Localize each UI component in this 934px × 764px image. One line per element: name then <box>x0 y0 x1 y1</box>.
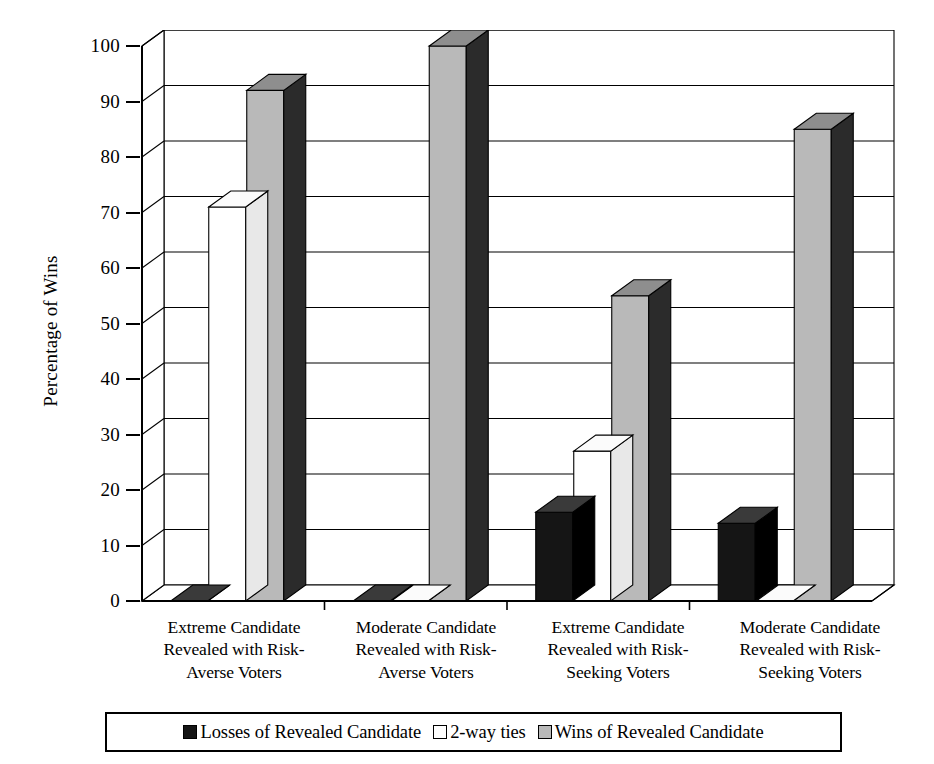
category-label-line: Averse Voters <box>330 661 522 683</box>
y-axis-tick-label: 100 <box>74 36 120 55</box>
bar-front-face <box>209 207 246 601</box>
y-axis-tick-label: 90 <box>74 92 120 111</box>
category-label-line: Seeking Voters <box>522 661 714 683</box>
category-label-line: Revealed with Risk- <box>330 638 522 660</box>
bar-2-wins-of-revealed-candidate <box>429 30 488 601</box>
bar-front-face <box>536 512 573 601</box>
x-axis-category-labels: Extreme CandidateRevealed with Risk-Aver… <box>138 616 906 683</box>
y-axis-title: Percentage of Wins <box>40 201 62 461</box>
bar-side-face <box>284 74 306 601</box>
y-axis-tick-label: 20 <box>74 480 120 499</box>
legend-label: 2-way ties <box>450 722 526 743</box>
x-axis-category-label-4: Moderate CandidateRevealed with Risk-See… <box>714 616 906 683</box>
chart-legend: Losses of Revealed Candidate2-way tiesWi… <box>105 712 842 752</box>
bar-side-face <box>611 435 633 601</box>
category-label-line: Moderate Candidate <box>330 616 522 638</box>
x-axis-category-label-2: Moderate CandidateRevealed with Risk-Ave… <box>330 616 522 683</box>
category-label-line: Seeking Voters <box>714 661 906 683</box>
legend-item-wins[interactable]: Wins of Revealed Candidate <box>538 722 764 743</box>
bar-front-face <box>794 129 831 601</box>
category-label-line: Extreme Candidate <box>522 616 714 638</box>
y-axis-tick-label: 70 <box>74 203 120 222</box>
legend-label: Wins of Revealed Candidate <box>555 722 764 743</box>
bar-side-face <box>649 280 671 601</box>
bar-side-face <box>466 30 488 601</box>
y-axis-tick-label: 60 <box>74 258 120 277</box>
y-axis-tick-label: 40 <box>74 369 120 388</box>
y-axis-tick-label: 50 <box>74 314 120 333</box>
bar-chart: Percentage of Wins 100908070605040302010… <box>0 0 934 764</box>
bar-side-face <box>573 496 595 601</box>
plot-svg <box>138 30 900 610</box>
legend-item-losses[interactable]: Losses of Revealed Candidate <box>183 722 421 743</box>
category-label-line: Revealed with Risk- <box>138 638 330 660</box>
bar-front-face <box>718 523 755 601</box>
bar-side-face <box>831 113 853 601</box>
legend-swatch-ties-icon <box>433 725 447 739</box>
bar-side-face <box>246 191 268 601</box>
x-axis-category-label-3: Extreme CandidateRevealed with Risk-Seek… <box>522 616 714 683</box>
x-axis-category-label-1: Extreme CandidateRevealed with Risk-Aver… <box>138 616 330 683</box>
bar-4-losses-of-revealed-candidate <box>718 507 777 601</box>
legend-item-ties[interactable]: 2-way ties <box>433 722 526 743</box>
category-label-line: Extreme Candidate <box>138 616 330 638</box>
y-axis-tick-label: 30 <box>74 425 120 444</box>
legend-swatch-losses-icon <box>183 725 197 739</box>
category-label-line: Moderate Candidate <box>714 616 906 638</box>
category-label-line: Revealed with Risk- <box>522 638 714 660</box>
bar-3-losses-of-revealed-candidate <box>536 496 595 601</box>
bar-1-2-way-ties <box>209 191 268 601</box>
y-axis-tick-label: 0 <box>74 591 120 610</box>
y-axis-tick-label: 10 <box>74 536 120 555</box>
bar-front-face <box>429 46 466 601</box>
bar-4-wins-of-revealed-candidate <box>794 113 853 601</box>
y-axis-tick-label: 80 <box>74 147 120 166</box>
plot-area <box>138 30 900 610</box>
legend-swatch-wins-icon <box>538 725 552 739</box>
legend-label: Losses of Revealed Candidate <box>200 722 421 743</box>
category-label-line: Revealed with Risk- <box>714 638 906 660</box>
category-label-line: Averse Voters <box>138 661 330 683</box>
